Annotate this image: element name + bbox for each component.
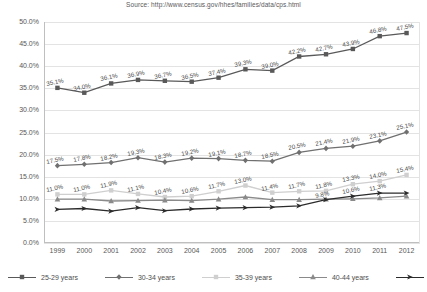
data-point-marker: [270, 190, 274, 194]
data-point-marker: [350, 143, 355, 149]
data-point-marker: [310, 274, 316, 279]
data-point-marker: [116, 274, 121, 280]
legend-label: 30-34 years: [138, 274, 175, 281]
data-point-marker: [136, 192, 140, 196]
legend-marker-icon: [299, 272, 327, 282]
data-point-marker: [404, 129, 409, 135]
data-point-marker: [407, 274, 413, 279]
data-point-marker: [55, 86, 59, 90]
y-axis-tick-label: 0.0%: [3, 239, 39, 247]
line-chart-svg: [44, 22, 420, 243]
y-axis-tick-label: 45.0%: [3, 40, 39, 48]
data-point-marker: [55, 192, 59, 196]
y-axis-tick-label: 15.0%: [3, 173, 39, 181]
data-point-marker: [270, 68, 274, 72]
data-point-marker: [82, 192, 86, 196]
y-axis-tick-label: 10.0%: [3, 195, 39, 203]
data-point-marker: [270, 158, 275, 164]
data-point-marker: [404, 31, 408, 35]
data-point-marker: [82, 91, 86, 95]
legend-label: 40-44 years: [332, 274, 369, 281]
chart-page: Source: http://www.census.gov/hhes/famil…: [0, 0, 427, 292]
data-point-marker: [324, 52, 328, 56]
data-point-marker: [243, 67, 247, 71]
chart-legend: 25-29 years30-34 years35-39 years40-44 y…: [8, 268, 422, 286]
data-point-marker: [351, 47, 355, 51]
y-axis-tick-label: 35.0%: [3, 84, 39, 92]
data-point-marker: [377, 138, 382, 144]
data-point-marker: [109, 188, 113, 192]
legend-item[interactable]: 35-39 years: [202, 272, 272, 282]
legend-item[interactable]: 45-49 years: [396, 272, 427, 282]
y-axis-tick-label: 5.0%: [3, 217, 39, 225]
legend-item[interactable]: 30-34 years: [105, 272, 175, 282]
legend-item[interactable]: 25-29 years: [8, 272, 78, 282]
legend-marker-icon: [202, 272, 230, 282]
data-point-marker: [297, 54, 301, 58]
data-point-marker: [297, 150, 302, 156]
legend-marker-icon: [105, 272, 133, 282]
data-point-marker: [109, 81, 113, 85]
plot-area: [44, 22, 420, 243]
data-point-marker: [189, 155, 194, 161]
legend-label: 25-29 years: [41, 274, 78, 281]
data-point-marker: [82, 162, 87, 168]
data-point-marker: [135, 155, 140, 161]
data-point-marker: [297, 189, 301, 193]
legend-item[interactable]: 40-44 years: [299, 272, 369, 282]
data-point-marker: [55, 163, 60, 169]
data-point-marker: [378, 34, 382, 38]
y-axis-tick-label: 30.0%: [3, 106, 39, 114]
data-point-marker: [136, 78, 140, 82]
y-axis-tick-label: 50.0%: [3, 18, 39, 26]
data-point-marker: [109, 160, 114, 166]
y-axis-tick-label: 25.0%: [3, 129, 39, 137]
y-axis-tick-label: 40.0%: [3, 62, 39, 70]
legend-marker-icon: [396, 272, 424, 282]
data-point-marker: [216, 189, 220, 193]
data-point-marker: [243, 158, 248, 164]
legend-marker-icon: [8, 272, 36, 282]
data-point-marker: [216, 75, 220, 79]
source-note: Source: http://www.census.gov/hhes/famil…: [0, 1, 427, 8]
data-point-marker: [55, 207, 61, 212]
data-point-marker: [163, 79, 167, 83]
data-point-marker: [216, 156, 221, 162]
y-axis-tick-label: 20.0%: [3, 151, 39, 159]
data-point-marker: [162, 159, 167, 165]
data-point-marker: [190, 79, 194, 83]
data-point-marker: [214, 275, 218, 279]
data-point-marker: [323, 146, 328, 152]
gridline: [44, 243, 420, 244]
data-point-marker: [243, 183, 247, 187]
data-point-marker: [20, 275, 24, 279]
legend-label: 35-39 years: [235, 274, 272, 281]
data-point-marker: [404, 173, 408, 177]
x-axis-tick-label: 2012: [390, 247, 424, 255]
